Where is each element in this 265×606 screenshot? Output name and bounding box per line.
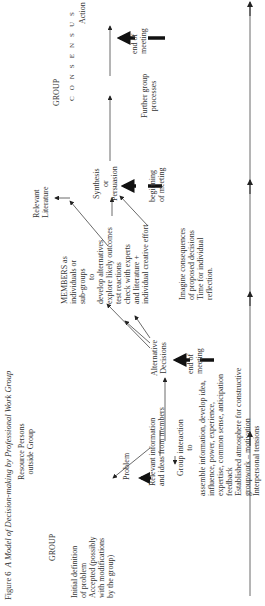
further-group-processes-text: Further group processes xyxy=(140,74,158,118)
group-left-label: GROUP xyxy=(48,534,57,561)
figure-caption: Figure 6 A Model of Decision-making by P… xyxy=(4,371,13,600)
relevant-information-text: Relevant information and ideas from memb… xyxy=(148,407,166,486)
initial-definition-text: Initial definition of problem Accepted (… xyxy=(70,536,115,598)
synthesis-node: Synthesis or Persuasion xyxy=(92,166,119,201)
figure-number: Figure 6 xyxy=(3,571,13,600)
consensus-label: CONSENSUS xyxy=(68,6,77,101)
imagine-consequences-text: Imagine consequences of proposed decisio… xyxy=(178,228,214,300)
group-right-label: GROUP xyxy=(52,79,61,106)
group-interaction-detail: assemble information, develop idea, infl… xyxy=(198,368,261,496)
group-interaction-heading: Group interaction to xyxy=(176,419,194,476)
figure-title: A Model of Decision-making by Profession… xyxy=(3,371,13,568)
relevant-literature-label: Relevant Literature xyxy=(32,186,50,218)
figure-canvas: Figure 6 A Model of Decision-making by P… xyxy=(0,0,265,606)
alternative-decisions-node: Alternative Decisions xyxy=(150,340,168,376)
beginning-of-meeting-label: beginning of meeting xyxy=(148,168,166,202)
problem-node: Problem xyxy=(122,453,131,480)
members-text: MEMBERS as individuals or sub-groups to … xyxy=(60,225,150,304)
end-of-meeting-2-label: end of meeting xyxy=(130,28,148,54)
action-node: Action xyxy=(78,2,87,24)
resource-persons-label: Resource Persons outside Group xyxy=(17,423,35,480)
end-of-meeting-1-label: end of meeting xyxy=(186,348,204,374)
